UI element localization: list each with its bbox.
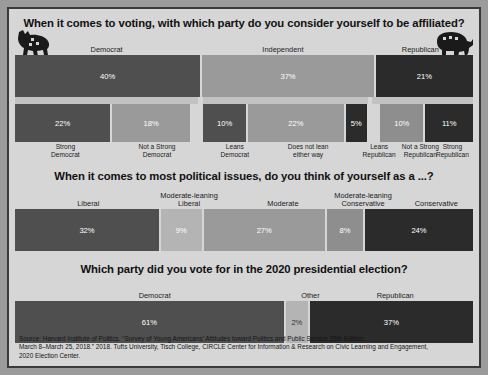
section-political-ideology: When it comes to most political issues, … xyxy=(9,162,479,251)
section-party-affiliation: When it comes to voting, with which part… xyxy=(9,9,479,162)
source-note: Source: Harvard Institute of Politics. “… xyxy=(9,329,479,366)
connector-republican xyxy=(372,97,473,104)
bar-segment-leans-republican[interactable]: 5% xyxy=(346,104,368,142)
bar-segment-republican[interactable]: 21% xyxy=(376,55,473,97)
label-republican: Republican xyxy=(368,46,473,55)
bar-segment-does-not-lean[interactable]: 22% xyxy=(248,104,345,142)
political-ideology-bar: 32% 9% 27% 8% 24% xyxy=(15,209,473,251)
sublabel-leans-republican: LeansRepublican xyxy=(359,143,400,159)
section-title-party-affiliation: When it comes to voting, with which part… xyxy=(9,9,479,32)
section-title-presidential-vote: Which party did you vote for in the 2020… xyxy=(9,251,479,278)
bar-segment-leans-democrat[interactable]: 10% xyxy=(203,104,248,142)
value-vote-republican: 37% xyxy=(384,318,399,327)
party-affiliation-breakdown-labels: StrongDemocrat Not a StrongDemocrat Lean… xyxy=(15,142,473,162)
label-vote-republican: Republican xyxy=(317,292,473,301)
value-not-strong-democrat: 18% xyxy=(144,119,159,128)
sublabel-does-not-lean: Does not leaneither way xyxy=(258,143,359,159)
bar-segment-not-strong-democrat[interactable]: 18% xyxy=(112,104,190,142)
connector-independent xyxy=(203,97,368,104)
sublabel-leans-democrat: LeansDemocrat xyxy=(212,143,258,159)
bar-segment-democrat[interactable]: 40% xyxy=(15,55,202,97)
value-conservative: 24% xyxy=(411,226,426,235)
sublabel-strong-republican: StrongRepublican xyxy=(427,143,477,159)
bar-segment-moderate-leaning-liberal[interactable]: 9% xyxy=(161,209,204,251)
breakdown-connectors xyxy=(15,97,473,104)
label-liberal: Liberal xyxy=(15,200,162,209)
source-line-2: March 8–March 25, 2018.” 2018. Tufts Uni… xyxy=(19,343,471,351)
bar-segment-independent[interactable]: 37% xyxy=(202,55,375,97)
value-vote-democrat: 61% xyxy=(142,318,157,327)
value-moderate: 27% xyxy=(257,226,272,235)
value-strong-republican: 11% xyxy=(442,119,457,128)
value-liberal: 32% xyxy=(79,226,94,235)
section-title-political-ideology: When it comes to most political issues, … xyxy=(9,162,479,185)
value-leans-democrat: 10% xyxy=(217,119,232,128)
bar-segment-liberal[interactable]: 32% xyxy=(15,209,161,251)
bar-segment-moderate-leaning-conservative[interactable]: 8% xyxy=(327,209,365,251)
label-moderate-leaning-conservative: Moderate-leaningConservative xyxy=(317,192,409,209)
party-affiliation-bar: 40% 37% 21% xyxy=(15,55,473,97)
value-republican: 21% xyxy=(417,72,432,81)
sublabel-not-strong-democrat: Not a StrongDemocrat xyxy=(116,143,198,159)
bar-segment-moderate[interactable]: 27% xyxy=(204,209,328,251)
label-moderate-leaning-liberal: Moderate-leaningLiberal xyxy=(152,192,225,209)
value-does-not-lean: 22% xyxy=(288,119,303,128)
bar-segment-strong-republican[interactable]: 11% xyxy=(425,104,473,142)
sublabel-strong-democrat: StrongDemocrat xyxy=(15,143,116,159)
value-independent: 37% xyxy=(280,72,295,81)
value-vote-other: 2% xyxy=(291,318,302,327)
political-ideology-labels: Liberal Moderate-leaningLiberal Moderate… xyxy=(15,185,473,209)
bar-segment-strong-democrat[interactable]: 22% xyxy=(15,104,112,142)
party-affiliation-breakdown-bar: 22% 18% 10% 22% 5% 10% 11% xyxy=(15,104,473,142)
source-line-1: Source: Harvard Institute of Politics. “… xyxy=(19,335,471,343)
value-not-strong-republican: 10% xyxy=(394,119,409,128)
connector-democrat xyxy=(15,97,198,104)
breakdown-spacer-2 xyxy=(367,104,380,142)
value-moderate-leaning-liberal: 9% xyxy=(176,226,187,235)
party-affiliation-labels: Democrat Independent Republican xyxy=(15,32,473,55)
label-democrat: Democrat xyxy=(15,46,198,55)
infographic-poster: When it comes to voting, with which part… xyxy=(7,7,481,368)
value-strong-democrat: 22% xyxy=(55,119,70,128)
presidential-vote-labels: Democrat Other Republican xyxy=(15,278,473,301)
breakdown-spacer-1 xyxy=(190,104,203,142)
value-democrat: 40% xyxy=(100,72,115,81)
bar-segment-conservative[interactable]: 24% xyxy=(365,209,473,251)
source-line-3: 2020 Election Center. xyxy=(19,352,471,360)
label-vote-democrat: Democrat xyxy=(15,292,294,301)
value-leans-republican: 5% xyxy=(351,119,362,128)
label-conservative: Conservative xyxy=(400,200,473,209)
bar-segment-not-strong-republican[interactable]: 10% xyxy=(380,104,425,142)
label-independent: Independent xyxy=(198,46,367,55)
value-moderate-leaning-conservative: 8% xyxy=(340,226,351,235)
